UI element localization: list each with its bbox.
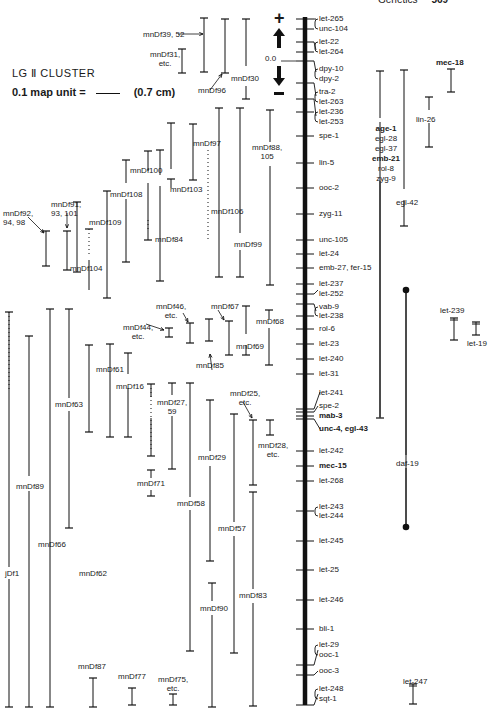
gene-label: unc-104: [319, 24, 348, 33]
gene-label: dpy-2: [319, 74, 339, 83]
gene-label: mab-3: [319, 411, 343, 420]
gene-let-19: let-19: [467, 339, 487, 348]
df-label-mnDf108: mnDf108: [110, 190, 142, 199]
gene-label: let-253: [319, 117, 343, 126]
df-label-mnDf89: mnDf89: [16, 482, 44, 491]
df-label-mnDf29: mnDf29: [198, 453, 226, 462]
gene-label: let-22: [319, 37, 339, 46]
df-label-mnDf39: mnDf39, 52: [143, 30, 184, 39]
gene-label: emb-27, fer-15: [319, 263, 371, 272]
map-line-art: [0, 0, 492, 711]
df-label-mnDf67: mnDf67: [211, 302, 239, 311]
gene-label: rol-6: [319, 324, 335, 333]
df-label-jDf1: jDf1: [5, 569, 19, 578]
df-label-line: mnDf31,: [150, 50, 180, 59]
gene-label: let-240: [319, 354, 343, 363]
df-label-mnDf85: mnDf85: [196, 361, 224, 370]
gene-let-247: let-247: [403, 677, 427, 686]
df-label-mnDf75: mnDf75,etc.: [158, 675, 188, 693]
gene-label: let-29: [319, 640, 339, 649]
df-label-line: 94, 98: [3, 218, 33, 227]
gene-egl-42: egl-42: [396, 198, 418, 207]
df-label-mnDf90: mnDf90: [200, 604, 228, 613]
df-label-mnDf28: mnDf28,etc.: [258, 441, 288, 459]
df-label-line: etc.: [230, 398, 260, 407]
gene-daf-19: daf-19: [396, 459, 419, 468]
gene-label: egl-28: [366, 134, 406, 144]
df-label-mnDf77: mnDf77: [118, 672, 146, 681]
df-label-mnDf16: mnDf16: [116, 382, 144, 391]
gene-label: zyg-11: [319, 209, 342, 218]
gene-label: let-241: [319, 388, 343, 397]
gene-label: let-244: [319, 511, 343, 520]
df-label-mnDf44: mnDf44,etc.: [123, 323, 153, 341]
gene-label: mec-15: [319, 461, 347, 470]
gene-label: age-1: [366, 124, 406, 134]
df-label-line: mnDf28,: [258, 441, 288, 450]
gene-label: let-245: [319, 536, 343, 545]
df-label-mnDf84: mnDf84: [155, 235, 183, 244]
gene-label: unc-4, egl-43: [319, 424, 368, 433]
df-label-line: mnDf92,: [3, 209, 33, 218]
df-label-mnDf27: mnDf27,59: [157, 398, 187, 416]
gene-label: ooc-2: [319, 183, 339, 192]
df-label-mnDf92: mnDf92,94, 98: [3, 209, 33, 227]
gene-let-239: let-239: [440, 306, 464, 315]
df-label-line: 93, 101: [51, 209, 81, 218]
gene-label: let-236: [319, 107, 343, 116]
df-label-line: 59: [157, 407, 187, 416]
df-label-line: mnDf88,: [252, 143, 282, 152]
gene-label: unc-105: [319, 235, 348, 244]
gene-label: vab-9: [319, 302, 339, 311]
df-label-mnDf104: mnDf104: [70, 264, 102, 273]
gene-label: let-248: [319, 684, 343, 693]
gene-label: zyg-9: [366, 174, 406, 184]
gene-cluster-age1: age-1egl-28egl-37emb-21rol-8zyg-9: [366, 124, 406, 184]
df-label-mnDf58: mnDf58: [177, 499, 205, 508]
df-label-mnDf106: mnDf106: [211, 207, 243, 216]
df-label-mnDf97: mnDf97: [193, 139, 221, 148]
gene-label: let-268: [319, 476, 343, 485]
gene-mec-18: mec-18: [436, 58, 464, 67]
df-label-mnDf100: mnDf100: [130, 166, 162, 175]
gene-label: let-24: [319, 249, 339, 258]
df-label-mnDf96: mnDf96: [198, 86, 226, 95]
df-label-mnDf62: mnDf62: [79, 569, 107, 578]
gene-label: let-238: [319, 311, 343, 320]
gene-label: let-31: [319, 369, 339, 378]
df-label-mnDf63: mnDf63: [55, 400, 83, 409]
df-label-mnDf83: mnDf83: [239, 591, 267, 600]
gene-label: ooc-3: [319, 666, 339, 675]
df-label-line: mnDf75,: [158, 675, 188, 684]
gene-label: ooc-1: [319, 650, 339, 659]
df-label-mnDf87: mnDf87: [78, 662, 106, 671]
df-label-mnDf61: mnDf61: [96, 365, 124, 374]
df-label-line: mnDf46,: [156, 302, 186, 311]
df-label-mnDf99: mnDf99: [234, 240, 262, 249]
df-label-line: mnDf44,: [123, 323, 153, 332]
df-label-mnDf88: mnDf88,105: [252, 143, 282, 161]
df-label-line: 105: [252, 152, 282, 161]
df-label-line: etc.: [156, 311, 186, 320]
gene-label: let-252: [319, 289, 343, 298]
gene-label: bli-1: [319, 624, 334, 633]
df-label-mnDf103: mnDf103: [170, 185, 202, 194]
gene-label: let-263: [319, 97, 343, 106]
gene-label: spe-2: [319, 401, 339, 410]
gene-label: let-23: [319, 339, 339, 348]
df-label-mnDf69: mnDf69: [236, 342, 264, 351]
gene-label: egl-37: [366, 144, 406, 154]
df-label-line: etc.: [258, 450, 288, 459]
df-label-mnDf71: mnDf71: [137, 479, 165, 488]
gene-label: rol-8: [366, 164, 406, 174]
gene-label: lin-5: [319, 158, 334, 167]
gene-label: sqt-1: [319, 694, 337, 703]
df-label-line: etc.: [123, 332, 153, 341]
gene-label: let-25: [319, 565, 339, 574]
df-label-mnDf46: mnDf46,etc.: [156, 302, 186, 320]
gene-label: let-246: [319, 595, 343, 604]
df-label-mnDf25: mnDf25,etc.: [230, 389, 260, 407]
gene-label: tra-2: [319, 87, 335, 96]
df-label-mnDf57: mnDf57: [218, 524, 246, 533]
df-label-mnDf66: mnDf66: [38, 540, 66, 549]
